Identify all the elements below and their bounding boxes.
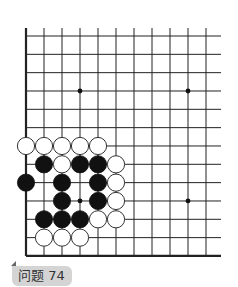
black-stone <box>53 192 70 209</box>
black-stone <box>53 174 70 191</box>
black-stone <box>35 156 52 173</box>
black-stone <box>71 211 88 228</box>
star-point <box>186 199 191 204</box>
white-stone <box>71 229 88 246</box>
star-point <box>78 89 83 94</box>
go-board <box>0 0 238 262</box>
black-stone <box>17 174 34 191</box>
white-stone <box>107 211 124 228</box>
star-point <box>78 199 83 204</box>
black-stone <box>89 156 106 173</box>
white-stone <box>53 156 70 173</box>
white-stone <box>53 137 70 154</box>
black-stone <box>35 211 52 228</box>
black-stone <box>89 174 106 191</box>
problem-label: 问题 74 <box>12 266 72 286</box>
white-stone <box>89 137 106 154</box>
white-stone <box>89 211 106 228</box>
white-stone <box>107 174 124 191</box>
star-point <box>186 89 191 94</box>
black-stone <box>89 192 106 209</box>
black-stone <box>71 156 88 173</box>
stones <box>17 137 124 246</box>
white-stone <box>107 192 124 209</box>
white-stone <box>53 229 70 246</box>
white-stone <box>17 137 34 154</box>
white-stone <box>71 137 88 154</box>
problem-label-text: 问题 74 <box>18 268 65 283</box>
white-stone <box>35 229 52 246</box>
white-stone <box>35 137 52 154</box>
white-stone <box>107 156 124 173</box>
black-stone <box>53 211 70 228</box>
